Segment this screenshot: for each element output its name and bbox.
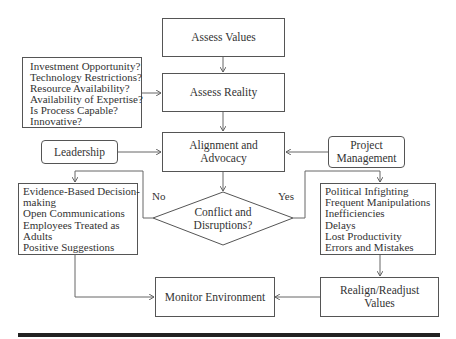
leadership-box: Leadership — [41, 140, 118, 164]
yes-outcomes-box: Political Infighting Frequent Manipulati… — [320, 183, 436, 255]
assess-reality-box: Assess Reality — [162, 73, 285, 112]
alignment-label-line1: Alignment and — [189, 139, 258, 152]
monitor-environment-box: Monitor Environment — [155, 277, 275, 317]
decision-line2: Disruptions? — [173, 219, 273, 232]
no-edge-label: No — [152, 190, 165, 202]
leadership-label: Leadership — [54, 146, 105, 159]
assess-values-box: Assess Values — [162, 18, 285, 57]
realign-box: Realign/Readjust Values — [320, 277, 439, 317]
no-outcome-item: Open Communications — [23, 208, 133, 219]
no-outcomes-box: Evidence-Based Decision- making Open Com… — [18, 183, 138, 255]
decision-label: Conflict and Disruptions? — [173, 206, 273, 232]
project-management-line2: Management — [336, 152, 396, 165]
yes-outcome-item: Errors and Mistakes — [325, 242, 431, 253]
project-management-box: Project Management — [328, 136, 405, 168]
alignment-label-line2: Advocacy — [200, 152, 247, 165]
bottom-rule — [18, 333, 440, 337]
yes-edge-label: Yes — [278, 190, 294, 202]
yes-outcome-item: Inefficiencies — [325, 208, 431, 219]
assess-values-label: Assess Values — [191, 31, 256, 44]
monitor-label: Monitor Environment — [165, 291, 266, 304]
realign-line2: Values — [364, 297, 395, 310]
assess-reality-label: Assess Reality — [190, 86, 257, 99]
question-item: Is Process Capable? — [30, 105, 134, 116]
alignment-box: Alignment and Advocacy — [162, 132, 285, 172]
no-outcome-item: Positive Suggestions — [23, 242, 133, 253]
realign-line1: Realign/Readjust — [340, 284, 419, 297]
questions-box: Investment Opportunity? Technology Restr… — [22, 57, 142, 128]
decision-line1: Conflict and — [173, 206, 273, 219]
question-item: Innovative? — [30, 116, 134, 127]
project-management-line1: Project — [350, 139, 383, 152]
question-item: Availability of Expertise? — [30, 94, 134, 105]
